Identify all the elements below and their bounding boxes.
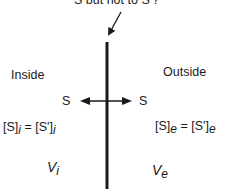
eq-outside-equals: = xyxy=(177,119,191,133)
volume-inside-symbol: V xyxy=(47,159,56,175)
arrowhead-right-icon xyxy=(122,97,132,105)
volume-outside: Ve xyxy=(152,163,168,177)
eq-inside-rhs-sub: i xyxy=(53,123,56,137)
volume-inside-sub: i xyxy=(56,164,59,178)
arrowhead-left-icon xyxy=(80,97,90,105)
species-right: S xyxy=(139,95,147,108)
eq-outside-lhs-sub: e xyxy=(170,122,177,136)
eq-inside-lhs: [S] xyxy=(3,120,18,134)
inside-label: Inside xyxy=(11,69,44,82)
equation-inside: [S]i = [S']i xyxy=(3,121,56,134)
outside-label: Outside xyxy=(163,66,206,79)
eq-outside-rhs: [S'] xyxy=(191,119,209,133)
pointer-arrow xyxy=(109,12,121,34)
caption: S but not to S'? xyxy=(74,0,159,7)
eq-outside-lhs: [S] xyxy=(155,119,170,133)
eq-inside-equals: = xyxy=(21,120,35,134)
volume-inside: Vi xyxy=(47,160,59,174)
volume-outside-sub: e xyxy=(161,167,168,181)
equation-outside: [S]e = [S']e xyxy=(155,120,216,133)
eq-inside-rhs: [S'] xyxy=(35,120,53,134)
eq-outside-rhs-sub: e xyxy=(209,122,216,136)
volume-outside-symbol: V xyxy=(152,162,161,178)
species-left: S xyxy=(62,95,70,108)
diagram-graphics xyxy=(0,0,231,189)
eq-inside-lhs-sub: i xyxy=(18,123,21,137)
